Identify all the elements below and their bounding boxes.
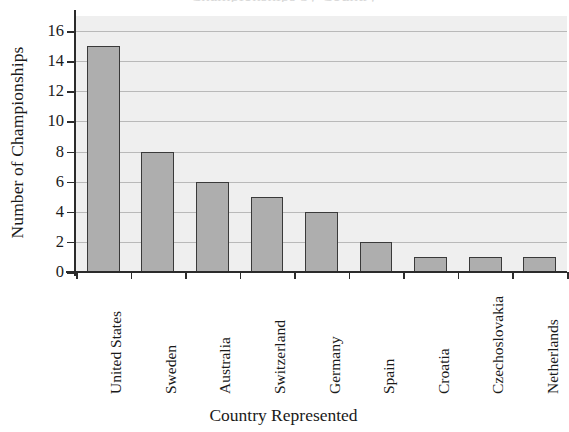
bar [305, 212, 338, 272]
plot-area [76, 16, 567, 272]
y-tick-label: 12 [24, 83, 64, 100]
y-tick-mark [67, 212, 76, 214]
x-axis-line [66, 271, 567, 273]
x-category-label-text: Czechoslovakia [490, 296, 506, 394]
x-category-label-text: Croatia [436, 348, 452, 394]
y-tick-mark [67, 272, 76, 274]
bar [87, 46, 120, 272]
y-tick-label: 14 [24, 53, 64, 70]
x-category-label-text: United States [108, 311, 124, 394]
y-tick-label: 2 [24, 234, 64, 251]
y-tick-mark [67, 242, 76, 244]
y-tick-mark [67, 121, 76, 123]
bar [469, 257, 502, 272]
y-tick-label: 16 [24, 23, 64, 40]
bar-slot [185, 16, 240, 272]
bar-slot [458, 16, 513, 272]
bar-slot [131, 16, 186, 272]
bar [141, 152, 174, 272]
x-axis-title: Country Represented [0, 405, 567, 426]
y-axis-line [74, 10, 76, 276]
bar-slot [76, 16, 131, 272]
bar-slot [403, 16, 458, 272]
y-tick-label: 10 [24, 113, 64, 130]
chart-title-cropped: Championships by Country [0, 0, 567, 2]
x-category-label-text: Germany [327, 336, 343, 394]
x-tick-mark [567, 272, 569, 279]
bar-slot [294, 16, 349, 272]
bar-slot [513, 16, 568, 272]
y-tick-label: 6 [24, 174, 64, 191]
bar [196, 182, 229, 272]
y-tick-label: 4 [24, 204, 64, 221]
bar-series [76, 16, 567, 272]
y-tick-mark [67, 31, 76, 33]
x-category-label-text: Australia [217, 337, 233, 394]
y-tick-mark [67, 182, 76, 184]
x-category-label-text: Netherlands [545, 319, 561, 394]
bar [414, 257, 447, 272]
y-tick-mark [67, 91, 76, 93]
y-tick-mark [67, 61, 76, 63]
y-tick-label: 8 [24, 144, 64, 161]
y-tick-mark [67, 152, 76, 154]
bar-slot [349, 16, 404, 272]
bar [523, 257, 556, 272]
bar-slot [240, 16, 295, 272]
x-category-label-text: Switzerland [272, 320, 288, 394]
x-category-label-text: Spain [381, 359, 397, 394]
x-category-label-text: Sweden [163, 345, 179, 394]
x-axis-category-labels: United StatesSwedenAustraliaSwitzerlandG… [76, 276, 567, 396]
bar [251, 197, 284, 272]
y-tick-label: 0 [24, 264, 64, 281]
bar [360, 242, 393, 272]
